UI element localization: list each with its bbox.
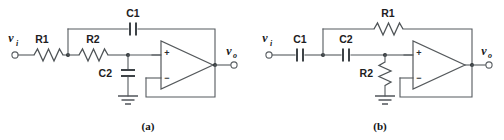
label-vo-b: v — [481, 44, 487, 58]
label-r1-a: R1 — [35, 33, 49, 45]
ground-symbol-b — [375, 96, 395, 104]
resistor-r2-a — [79, 49, 108, 61]
label-vo-sub-a: o — [233, 51, 237, 60]
label-vo-a: v — [226, 44, 232, 58]
label-vi-b: v — [262, 31, 268, 45]
input-terminal-b[interactable] — [266, 52, 272, 58]
circuit-b: C1 C2 R1 R2 + − v i v o (b) — [262, 7, 492, 133]
opamp-b-plus-label: + — [416, 48, 421, 58]
label-vi-sub-a: i — [16, 39, 19, 48]
resistor-r1-a — [34, 49, 63, 61]
circuit-diagram-canvas: R1 R2 C1 C2 + − v i v o (a) — [0, 0, 504, 140]
resistor-r2-b — [379, 62, 391, 86]
label-r2-b: R2 — [360, 67, 374, 79]
opamp-b-minus-label: − — [416, 73, 421, 83]
label-r2-a: R2 — [86, 33, 100, 45]
label-c1-a: C1 — [126, 7, 140, 19]
label-vi-a: v — [8, 31, 14, 45]
opamp-a-plus-label: + — [164, 48, 169, 58]
circuit-a: R1 R2 C1 C2 + − v i v o (a) — [8, 7, 237, 133]
output-terminal-a[interactable] — [231, 62, 237, 68]
label-r1-b: R1 — [381, 7, 395, 19]
output-terminal-b[interactable] — [486, 62, 492, 68]
label-c1-b: C1 — [293, 33, 307, 45]
ground-symbol-a — [118, 96, 138, 104]
resistor-r1-b — [374, 23, 403, 35]
label-c2-b: C2 — [339, 33, 353, 45]
circuit-figure: R1 R2 C1 C2 + − v i v o (a) — [0, 0, 504, 140]
input-terminal-a[interactable] — [12, 52, 18, 58]
label-vi-sub-b: i — [270, 39, 273, 48]
caption-b: (b) — [373, 120, 387, 133]
caption-a: (a) — [142, 120, 155, 133]
label-c2-a: C2 — [99, 67, 113, 79]
opamp-a-minus-label: − — [164, 73, 169, 83]
label-vo-sub-b: o — [488, 51, 492, 60]
